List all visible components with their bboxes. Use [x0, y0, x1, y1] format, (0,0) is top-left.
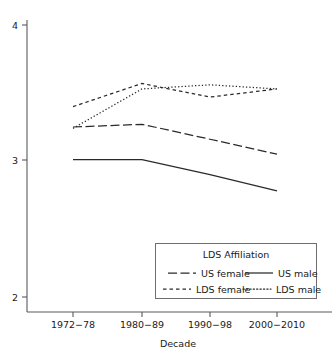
- x-tick-label-3: 2000−2010: [249, 319, 305, 330]
- x-tick-label-0: 1972−78: [51, 319, 95, 330]
- line-chart: 4 3 2 1972−78 1980−89 1990−98 2000−2010 …: [0, 0, 336, 354]
- series-line-lds-male: [73, 85, 277, 129]
- series-group: [73, 83, 277, 190]
- y-tick-label-4: 4: [12, 20, 18, 31]
- legend-title: LDS Affiliation: [203, 249, 270, 260]
- x-axis-title: Decade: [160, 338, 196, 349]
- series-line-us-female: [73, 124, 277, 154]
- x-tick-label-1: 1980−89: [120, 319, 164, 330]
- chart-canvas: 4 3 2 1972−78 1980−89 1990−98 2000−2010 …: [0, 0, 336, 354]
- x-tick-label-2: 1990−98: [188, 319, 232, 330]
- legend-label-us-female: US female: [201, 268, 250, 279]
- legend: LDS Affiliation US female US male LDS fe…: [156, 244, 322, 299]
- y-tick-label-2: 2: [12, 292, 18, 303]
- y-tick-label-3: 3: [12, 155, 18, 166]
- legend-label-us-male: US male: [278, 268, 318, 279]
- legend-label-lds-male: LDS male: [276, 284, 321, 295]
- series-line-us-male: [73, 160, 277, 191]
